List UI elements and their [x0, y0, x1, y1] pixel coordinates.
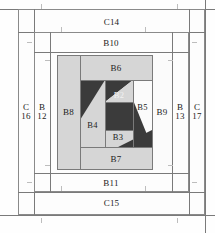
b6-bottom-edge — [80, 80, 152, 81]
tick-mark — [27, 182, 32, 183]
b2-bottom-edge — [105, 102, 133, 103]
b5-left-edge — [133, 80, 134, 147]
tick-mark — [45, 60, 50, 61]
b13-left-edge — [172, 32, 173, 192]
block-left-edge — [57, 55, 58, 170]
tick-mark — [168, 60, 173, 61]
b11-top-edge — [34, 173, 189, 174]
tick-mark — [192, 42, 197, 43]
tick-mark — [168, 165, 173, 166]
tick-mark — [192, 182, 197, 183]
tick-mark — [177, 218, 178, 223]
tick-mark — [27, 42, 32, 43]
b3-top-edge — [105, 130, 133, 131]
tick-mark — [45, 165, 50, 166]
b4-right-edge — [105, 80, 106, 147]
tick-mark — [61, 27, 62, 32]
c15-top-edge — [18, 192, 205, 193]
quilt-block-diagram: C14 C15 C 16 C 17 B10 B11 B 12 B 13 — [0, 0, 215, 233]
outer-guide-right — [205, 0, 206, 233]
c17-left-edge — [189, 9, 190, 215]
block-bottom-edge — [57, 169, 152, 170]
b8-right-edge — [80, 55, 81, 170]
tick-mark — [145, 27, 146, 32]
tick-mark — [145, 186, 146, 191]
b12-right-edge — [50, 32, 51, 192]
tick-mark — [41, 218, 42, 223]
block-body-bounds — [57, 55, 172, 170]
tick-mark — [61, 186, 62, 191]
b10-bottom-edge — [34, 52, 189, 53]
block-top-edge — [57, 55, 152, 56]
b7-top-edge — [80, 147, 152, 148]
outer-guide-bottom — [0, 215, 215, 216]
block-right-edge — [152, 55, 153, 170]
